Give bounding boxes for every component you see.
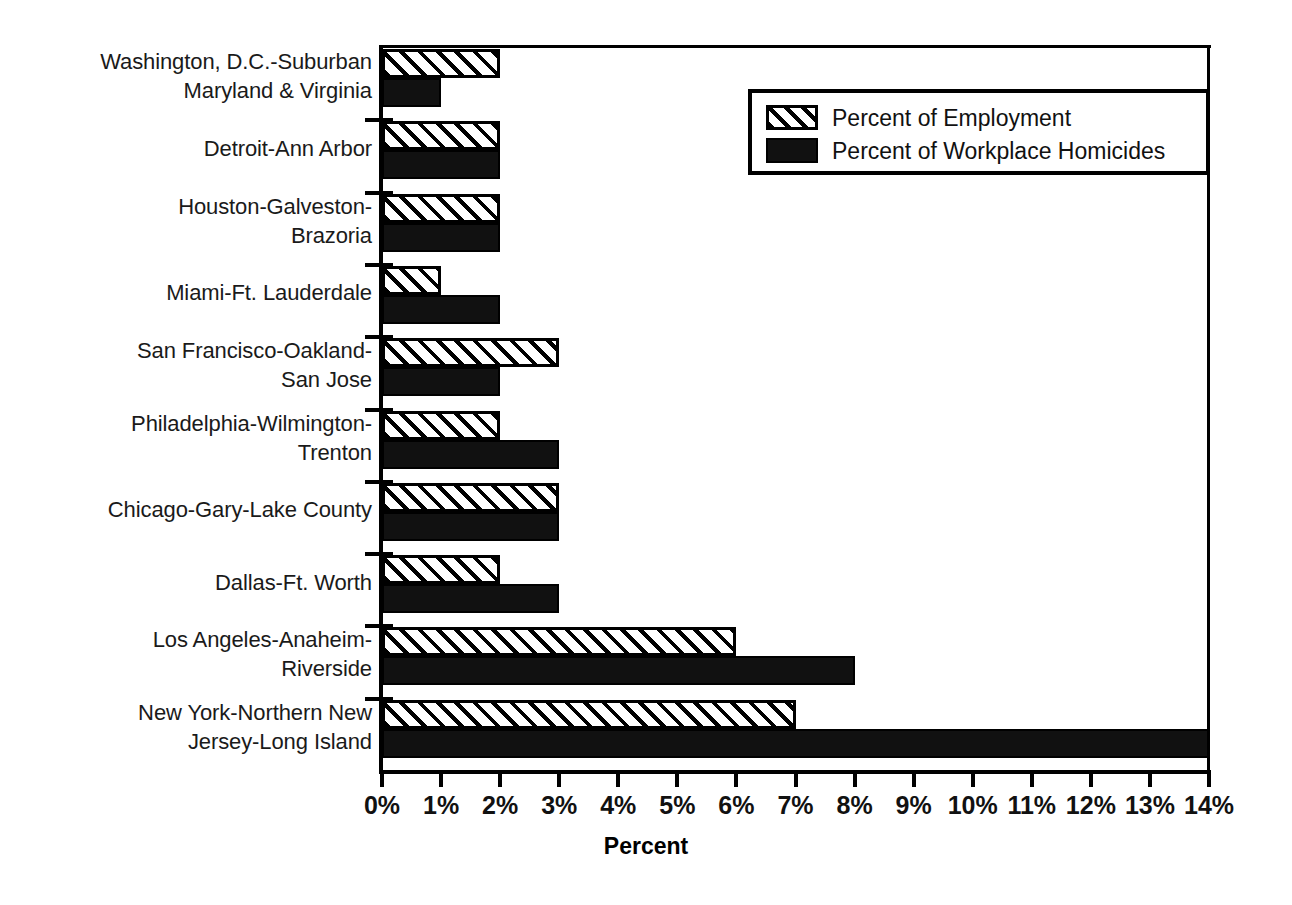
bar-homicides: [382, 223, 500, 252]
bar-employment: [382, 49, 500, 78]
value-tick-label: 11%: [1007, 790, 1056, 820]
legend-item-homicides: Percent of Workplace Homicides: [766, 134, 1192, 167]
value-tick-label: 7%: [777, 790, 813, 820]
value-tick-label: 13%: [1125, 790, 1175, 820]
value-tick-label: 6%: [718, 790, 754, 820]
value-tick: [971, 772, 975, 787]
bar-homicides: [382, 512, 559, 541]
value-tick: [794, 772, 798, 787]
category-label: Miami-Ft. Lauderdale: [20, 278, 372, 307]
value-tick: [380, 772, 384, 787]
category-label: Chicago-Gary-Lake County: [20, 495, 372, 524]
value-tick: [616, 772, 620, 787]
bar-employment: [382, 266, 441, 295]
bar-homicides: [382, 656, 855, 685]
value-tick: [1089, 772, 1093, 787]
category-label: New York-Northern New Jersey-Long Island: [20, 698, 372, 756]
bar-employment: [382, 194, 500, 223]
category-label: Detroit-Ann Arbor: [20, 134, 372, 163]
bar-homicides: [382, 150, 500, 179]
category-label: Philadelphia-Wilmington- Trenton: [20, 409, 372, 467]
legend: Percent of Employment Percent of Workpla…: [748, 89, 1210, 175]
bar-homicides: [382, 295, 500, 324]
value-tick: [439, 772, 443, 787]
bar-chart: Washington, D.C.-Suburban Maryland & Vir…: [0, 0, 1292, 905]
value-tick-label: 10%: [948, 790, 998, 820]
value-tick-label: 1%: [423, 790, 459, 820]
legend-label-homicides: Percent of Workplace Homicides: [832, 138, 1165, 164]
category-axis-labels: Washington, D.C.-Suburban Maryland & Vir…: [20, 47, 372, 772]
value-tick-label: 5%: [659, 790, 695, 820]
value-tick-label: 9%: [896, 790, 932, 820]
bar-homicides: [382, 729, 1209, 758]
value-tick: [853, 772, 857, 787]
bar-employment: [382, 411, 500, 440]
value-tick-label: 2%: [482, 790, 518, 820]
bar-employment: [382, 483, 559, 512]
value-tick-label: 14%: [1184, 790, 1234, 820]
bar-homicides: [382, 440, 559, 469]
category-label: San Francisco-Oakland- San Jose: [20, 336, 372, 394]
category-label: Dallas-Ft. Worth: [20, 568, 372, 597]
bar-homicides: [382, 78, 441, 107]
value-tick: [734, 772, 738, 787]
value-tick: [912, 772, 916, 787]
value-tick: [557, 772, 561, 787]
value-tick-label: 12%: [1066, 790, 1116, 820]
value-tick: [498, 772, 502, 787]
bar-employment: [382, 700, 796, 729]
legend-item-employment: Percent of Employment: [766, 101, 1192, 134]
category-label: Houston-Galveston- Brazoria: [20, 192, 372, 250]
bar-homicides: [382, 584, 559, 613]
category-label: Los Angeles-Anaheim- Riverside: [20, 625, 372, 683]
bar-employment: [382, 338, 559, 367]
legend-swatch-hatch-icon: [766, 105, 818, 130]
category-label: Washington, D.C.-Suburban Maryland & Vir…: [20, 47, 372, 105]
value-tick: [675, 772, 679, 787]
value-tick: [1207, 772, 1211, 787]
x-axis-title: Percent: [0, 833, 1292, 860]
legend-label-employment: Percent of Employment: [832, 105, 1071, 131]
bar-homicides: [382, 367, 500, 396]
bar-employment: [382, 627, 736, 656]
legend-swatch-solid-icon: [766, 138, 818, 163]
value-tick-label: 0%: [364, 790, 400, 820]
value-tick-label: 4%: [600, 790, 636, 820]
value-tick: [1030, 772, 1034, 787]
value-tick-label: 3%: [541, 790, 577, 820]
value-tick: [1148, 772, 1152, 787]
bar-employment: [382, 121, 500, 150]
bar-employment: [382, 555, 500, 584]
value-tick-label: 8%: [836, 790, 872, 820]
